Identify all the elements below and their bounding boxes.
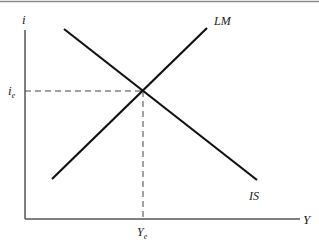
is-label: IS <box>248 189 259 203</box>
x-axis-label: Y <box>303 212 312 227</box>
equilibrium-rate-label: ie <box>8 83 16 100</box>
equilibrium-output-label: Ye <box>137 225 148 241</box>
islm-diagram: i Y LM IS ie Ye <box>0 0 319 248</box>
is-curve <box>64 29 257 180</box>
y-axis-label: i <box>22 12 26 27</box>
lm-label: LM <box>213 14 232 28</box>
diagram-canvas: i Y LM IS ie Ye <box>0 0 319 248</box>
lm-curve <box>52 28 207 179</box>
